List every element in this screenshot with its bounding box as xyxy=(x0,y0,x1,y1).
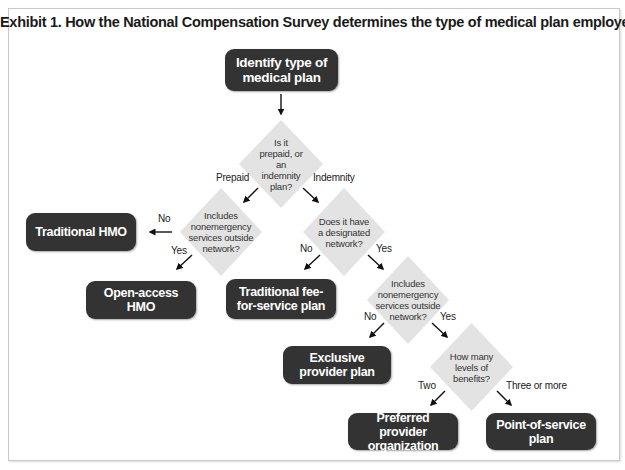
edge-label-network-no: No xyxy=(300,243,312,254)
node-preferred-provider-organization: Preferred provider organization xyxy=(348,413,458,450)
edge-label-levels-three: Three or more xyxy=(506,380,567,391)
edge-label-outside-no: No xyxy=(364,311,376,322)
node-label: Identify type of medical plan xyxy=(229,55,334,85)
edge-label-hmo-no: No xyxy=(158,213,170,224)
node-traditional-fee-for-service: Traditional fee-for-service plan xyxy=(226,279,336,319)
decision-label: Does it have a designated network? xyxy=(317,216,371,249)
decision-label: Includes nonemergency services outside n… xyxy=(185,210,257,254)
edge-label-prepaid: Prepaid xyxy=(216,172,249,183)
decision-label: Includes nonemergency services outside n… xyxy=(372,278,444,322)
edge-label-hmo-yes: Yes xyxy=(171,245,187,256)
edge-label-outside-yes: Yes xyxy=(440,311,456,322)
decision-levels-of-benefits: How many levels of benefits? xyxy=(430,323,513,411)
node-exclusive-provider-plan: Exclusive provider plan xyxy=(283,346,391,384)
edge-label-network-yes: Yes xyxy=(376,243,392,254)
decision-label: Is it prepaid, or an indemnity plan? xyxy=(257,137,305,192)
decision-label: How many levels of benefits? xyxy=(446,351,497,384)
node-label: Traditional fee-for-service plan xyxy=(230,285,332,313)
node-label: Preferred provider organization xyxy=(352,411,454,453)
node-identify-medical-plan: Identify type of medical plan xyxy=(225,49,338,91)
node-label: Exclusive provider plan xyxy=(287,351,387,379)
node-open-access-hmo: Open-access HMO xyxy=(86,281,196,319)
node-label: Open-access HMO xyxy=(90,286,192,314)
edge-label-levels-two: Two xyxy=(418,380,436,391)
decision-hmo-outside-network: Includes nonemergency services outside n… xyxy=(180,188,262,276)
node-traditional-hmo: Traditional HMO xyxy=(26,213,136,251)
edge-label-indemnity: Indemnity xyxy=(313,172,355,183)
node-point-of-service-plan: Point-of-service plan xyxy=(486,413,596,450)
node-label: Point-of-service plan xyxy=(490,418,592,446)
node-label: Traditional HMO xyxy=(35,225,126,239)
